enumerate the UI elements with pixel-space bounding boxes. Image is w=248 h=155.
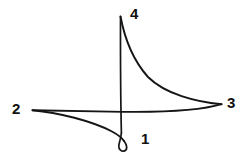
- curve-canvas: [0, 0, 248, 155]
- vertex-label-3: 3: [227, 95, 235, 110]
- stroke-left-to-loop: [33, 110, 125, 141]
- curve-diagram: 1 2 3 4: [0, 0, 248, 155]
- stroke-top-to-right: [121, 17, 222, 105]
- vertex-label-2: 2: [12, 101, 20, 116]
- vertex-label-4: 4: [130, 6, 138, 21]
- stroke-loop-to-top: [120, 17, 121, 134]
- vertex-label-1: 1: [141, 131, 149, 146]
- stroke-right-to-left: [33, 104, 222, 112]
